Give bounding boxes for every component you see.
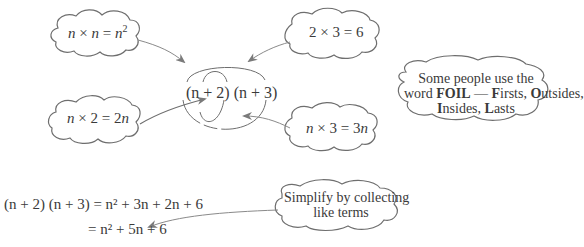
times-sign: × [320, 24, 328, 40]
working-rhs-simplified: = n² + 5n + 6 [88, 221, 167, 237]
foil-note-line1: Some people use the [404, 71, 548, 86]
foil-note: Some people use the word FOIL — Firsts, … [404, 71, 548, 116]
letter-l: L [485, 101, 494, 116]
working-line1: (n + 2) (n + 3) = n² + 3n + 2n + 6 [4, 196, 203, 213]
lasts-rest: asts [494, 101, 515, 116]
arrow-lasts [249, 42, 290, 61]
arc-outsides [183, 100, 266, 129]
letter-f: F [492, 86, 501, 101]
dash: — [474, 86, 488, 101]
foil-note-line2: word FOIL — Firsts, Outsides, [404, 86, 548, 101]
arrow-simplify [149, 210, 278, 227]
outsides-rest: utsides, [541, 86, 583, 101]
times-sign: × [78, 110, 86, 126]
cloud-firsts-label: n × n = n2 [68, 25, 127, 42]
equals-sign: = [103, 25, 111, 41]
equals-sign: = [102, 110, 110, 126]
word-text: word [404, 86, 433, 101]
term-a: n [67, 110, 75, 126]
simplify-note: Simplify by collecting like terms [284, 190, 398, 220]
insides-rest: nsides, [443, 101, 482, 116]
cloud-lasts-label: 2 × 3 = 6 [309, 24, 363, 41]
simplify-note-line1: Simplify by collecting [284, 190, 398, 205]
result: 6 [356, 24, 364, 40]
term-a: 2 [309, 24, 317, 40]
foil-acronym: FOIL [436, 86, 470, 101]
cloud-outsides-label: n × 2 = 2n [67, 110, 129, 127]
result-variable: n [360, 120, 368, 136]
firsts-rest: irsts, [500, 86, 527, 101]
center-expression: (n + 2) (n + 3) [186, 84, 277, 102]
arc-insides [200, 100, 224, 122]
working-line2: = n² + 5n + 6 [88, 221, 167, 238]
term-b: 2 [90, 110, 98, 126]
arrow-firsts [138, 40, 184, 62]
foil-note-line3: Insides, Lasts [404, 101, 548, 116]
times-sign: × [317, 120, 325, 136]
working-rhs-expanded: = n² + 3n + 2n + 6 [93, 196, 203, 212]
arrow-insides [244, 116, 290, 128]
center-expression-text: (n + 2) (n + 3) [186, 84, 277, 101]
term-b: n [91, 25, 99, 41]
simplify-note-line2: like terms [284, 205, 398, 220]
term-b: 3 [329, 120, 337, 136]
times-sign: × [79, 25, 87, 41]
equals-sign: = [341, 120, 349, 136]
term-b: 3 [332, 24, 340, 40]
arc-lasts [203, 72, 227, 83]
result-variable: n [121, 110, 129, 126]
cloud-insides-label: n × 3 = 3n [306, 120, 368, 137]
term-a: n [306, 120, 314, 136]
result-exponent: 2 [122, 23, 127, 34]
equals-sign: = [344, 24, 352, 40]
working-lhs: (n + 2) (n + 3) [4, 196, 90, 212]
term-a: n [68, 25, 76, 41]
letter-o: O [530, 86, 541, 101]
